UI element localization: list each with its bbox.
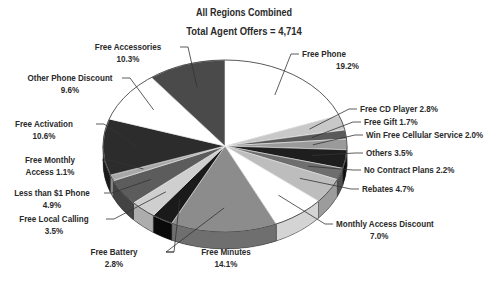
label-free-minutes: Free Minutes14.1%: [201, 246, 251, 269]
label-free-accessories: Free Accessories10.3%: [95, 41, 162, 64]
label-others: Others 3.5%: [366, 147, 413, 158]
label-rebates: Rebates 4.7%: [362, 183, 414, 194]
label-no-contract-plans: No Contract Plans 2.2%: [364, 164, 455, 175]
label-free-local-calling: Free Local Calling3.5%: [19, 213, 88, 236]
label-free-battery: Free Battery2.8%: [90, 246, 137, 269]
label-free-monthly-access: Free MonthlyAccess 1.1%: [25, 154, 75, 177]
label-free-cd-player: Free CD Player 2.8%: [360, 103, 438, 114]
pie-slices: [103, 60, 347, 232]
label-free-gift: Free Gift 1.7%: [364, 116, 418, 127]
label-free-phone: Free Phone19.2%: [302, 48, 359, 71]
pie-chart: All Regions Combined Total Agent Offers …: [0, 0, 488, 287]
label-other-phone-discount: Other Phone Discount9.6%: [27, 72, 112, 95]
label-monthly-access-discount: Monthly Access Discount7.0%: [336, 218, 434, 241]
label-win-free-cellular-service: Win Free Cellular Service 2.0%: [366, 129, 483, 140]
pie-graphic: Free Phone19.2%Free CD Player 2.8%Free G…: [0, 0, 488, 287]
label-free-activation: Free Activation10.6%: [15, 118, 73, 141]
label-less-than-1-phone: Less than $1 Phone4.9%: [14, 187, 90, 210]
